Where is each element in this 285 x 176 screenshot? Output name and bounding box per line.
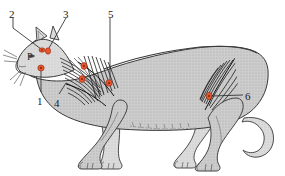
label-5: 5 [108,9,114,20]
cat-anatomy-illustration [0,0,285,176]
tail [242,118,274,158]
label-1: 1 [37,96,43,107]
figure-canvas: 2 3 5 1 4 6 P [0,0,285,176]
label-4: 4 [54,98,60,109]
label-6: 6 [245,91,251,102]
annotation-p: P [27,51,33,62]
head [3,26,74,86]
marker-head [45,48,50,54]
label-2: 2 [9,9,15,20]
label-3: 3 [63,9,69,20]
